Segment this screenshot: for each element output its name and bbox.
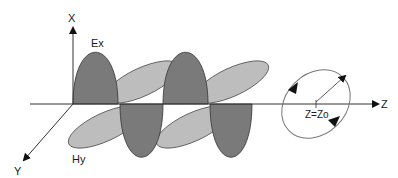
y-axis bbox=[24, 104, 73, 160]
z-zo-label: Z=Zo bbox=[305, 109, 329, 120]
rotation-arrow-right-icon bbox=[328, 116, 340, 127]
rotation-arrow-left-icon bbox=[288, 82, 298, 94]
e-field-label: Ex bbox=[91, 37, 104, 49]
e-lobe-2 bbox=[120, 104, 163, 157]
e-lobe-3 bbox=[163, 52, 208, 104]
x-axis-label: X bbox=[68, 12, 76, 24]
em-wave-diagram: X Y Z Ex Hy Z=Zo bbox=[0, 0, 398, 178]
z-axis-label: Z bbox=[381, 98, 388, 110]
polarization-vector bbox=[316, 76, 345, 102]
h-field-label: Hy bbox=[72, 153, 86, 165]
e-lobe-4 bbox=[210, 104, 252, 157]
y-axis-label: Y bbox=[14, 165, 22, 177]
polarization-ellipse-group bbox=[268, 56, 364, 152]
e-lobe-1 bbox=[73, 52, 118, 104]
